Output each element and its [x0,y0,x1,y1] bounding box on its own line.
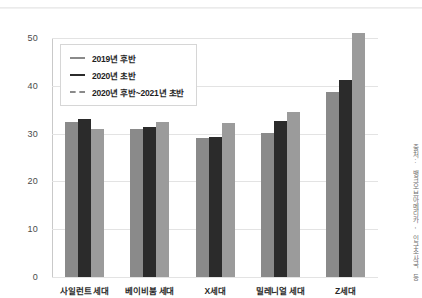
bar [91,129,104,277]
legend-swatch-solid-gray-icon [70,57,85,59]
bar [209,137,222,277]
y-axis-tick-label: 10 [0,224,38,234]
source-note: 출처: 뱅크오브아메리카, 인구조사국 등 [410,144,420,281]
x-axis-tick-label: X세대 [204,284,225,296]
bar [156,122,169,277]
legend-item-1: 2020년 초반 [70,69,184,81]
legend-item-0: 2019년 후반 [70,52,184,64]
bar-group [194,38,236,277]
bar [326,92,339,277]
legend-swatch-dashed-gray-icon [70,91,85,93]
bar-chart-figure: 01020304050 2019년 후반 2020년 초반 2020년 후반~2… [0,18,422,298]
bar [222,123,235,277]
y-axis-tick-label: 30 [0,129,38,139]
y-axis-tick-label: 40 [0,81,38,91]
bar [78,119,91,277]
x-axis-tick-label: 사일런트 세대 [60,284,109,296]
y-axis-tick-label: 0 [0,272,38,282]
x-axis-tick-label: Z세대 [335,284,356,296]
bar [339,80,352,277]
x-axis-tick-label: 밀레니얼 세대 [256,284,305,296]
bar [130,129,143,277]
bar-group [259,38,301,277]
legend-label-0: 2019년 후반 [92,52,136,64]
x-axis-tick-label: 베이비붐 세대 [125,284,174,296]
y-axis-tick-label: 50 [0,33,38,43]
top-divider [0,7,422,9]
bar [352,33,365,277]
bar [261,133,274,277]
bar [196,138,209,277]
chart-legend: 2019년 후반 2020년 초반 2020년 후반~2021년 초반 [60,44,197,106]
bar [143,127,156,277]
legend-label-1: 2020년 초반 [92,69,136,81]
bar [65,122,78,277]
legend-swatch-solid-black-icon [70,74,85,76]
gridline [52,277,378,278]
bar [274,121,287,277]
legend-label-2: 2020년 후반~2021년 초반 [92,86,184,98]
y-axis-tick-label: 20 [0,176,38,186]
bar [287,112,300,277]
bar-group [324,38,366,277]
legend-item-2: 2020년 후반~2021년 초반 [70,86,184,98]
